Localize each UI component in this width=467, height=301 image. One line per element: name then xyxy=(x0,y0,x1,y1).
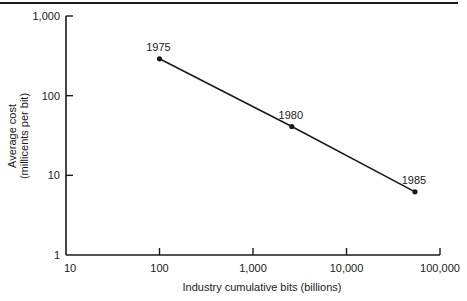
data-point xyxy=(289,124,294,129)
y-tick-label: 1 xyxy=(54,249,60,261)
x-axis-ticks: 101001,00010,000100,000 xyxy=(64,248,460,274)
y-axis-ticks: 1101001,000 xyxy=(32,10,73,261)
data-points: 197519801985 xyxy=(146,41,426,195)
data-point-label: 1980 xyxy=(279,109,303,121)
data-point-label: 1975 xyxy=(146,41,170,53)
y-axis-title: Average cost (millicents per bit) xyxy=(6,93,30,179)
data-point xyxy=(412,189,417,194)
data-point-label: 1985 xyxy=(402,174,426,186)
x-tick-label: 100,000 xyxy=(420,262,460,274)
data-point xyxy=(157,56,162,61)
x-tick-label: 1,000 xyxy=(239,262,267,274)
x-tick-label: 10,000 xyxy=(330,262,364,274)
x-tick-label: 100 xyxy=(150,262,168,274)
axes xyxy=(66,16,440,255)
cost-line xyxy=(160,59,416,192)
y-tick-label: 100 xyxy=(42,90,60,102)
y-axis-title-line1: Average cost xyxy=(6,104,18,168)
y-axis-title-line2: (millicents per bit) xyxy=(18,93,30,179)
x-axis-title: Industry cumulative bits (billions) xyxy=(183,281,342,293)
y-tick-label: 10 xyxy=(48,169,60,181)
experience-curve-chart: 101001,00010,000100,000 1101001,000 1975… xyxy=(0,0,467,301)
x-tick-label: 10 xyxy=(64,262,76,274)
y-tick-label: 1,000 xyxy=(32,10,60,22)
